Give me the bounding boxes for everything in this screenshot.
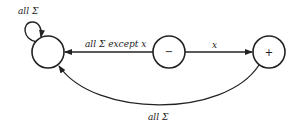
state-minus-label: − — [165, 46, 173, 57]
state-plus-label: + — [265, 47, 273, 58]
automaton-diagram: all Σ all Σ except x x all Σ − + — [0, 0, 299, 125]
self-loop-label: all Σ — [18, 6, 39, 16]
plus-to-dead-label: all Σ — [148, 112, 169, 122]
minus-to-dead-label: all Σ except x — [85, 39, 146, 49]
state-plus: + — [253, 36, 285, 68]
state-dead — [32, 36, 64, 68]
plus-to-dead-edge — [59, 65, 259, 105]
minus-to-plus-label: x — [212, 40, 217, 50]
state-minus: − — [153, 36, 185, 68]
